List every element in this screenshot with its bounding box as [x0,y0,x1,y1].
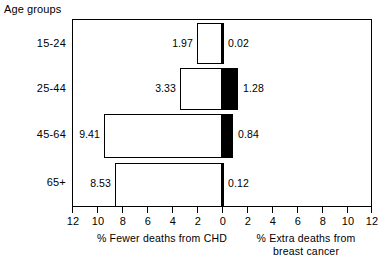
bar-chd-65plus [115,163,222,207]
category-label-15-24: 15-24 [2,37,66,49]
value-label-chd-45-64: 9.41 [44,129,100,140]
page-title: Age groups [4,3,61,15]
chart-container: Age groups 15-24 25-44 45-64 65+ 1.97 0.… [0,0,391,260]
x-tick-mark-pos2 [247,207,248,213]
x-tick-mark-pos8 [322,207,323,213]
bar-chd-45-64 [104,114,222,158]
x-tick-mark-pos10 [347,207,348,213]
bar-breast-cancer-65plus [222,163,224,207]
value-label-breast-cancer-15-24: 0.02 [228,38,288,49]
value-label-chd-25-44: 3.33 [120,83,176,94]
value-label-breast-cancer-45-64: 0.84 [238,129,298,140]
x-tick-mark-pos6 [297,207,298,213]
value-label-chd-65plus: 8.53 [55,178,111,189]
value-label-chd-15-24: 1.97 [137,38,193,49]
bar-breast-cancer-15-24 [222,23,224,64]
bar-breast-cancer-25-44 [222,68,238,110]
x-tick-mark-neg2 [197,207,198,213]
bar-breast-cancer-45-64 [222,114,233,158]
bar-chd-15-24 [197,23,222,64]
x-axis-label-right-line1: % Extra deaths from [257,232,356,244]
x-tick-mark-zero [222,207,223,213]
x-axis-label-right-line2: breast cancer [273,245,339,257]
x-tick-mark-neg12 [72,207,73,213]
x-tick-mark-neg8 [122,207,123,213]
x-tick-mark-neg6 [147,207,148,213]
bar-chd-25-44 [180,68,222,110]
x-tick-mark-neg4 [172,207,173,213]
value-label-breast-cancer-65plus: 0.12 [228,178,288,189]
x-tick-label-pos12: 12 [357,215,387,227]
x-tick-mark-neg10 [97,207,98,213]
category-label-25-44: 25-44 [2,82,66,94]
x-tick-mark-pos4 [272,207,273,213]
x-axis-label-right: % Extra deaths from breast cancer [236,232,376,257]
x-tick-mark-pos12 [371,207,372,213]
value-label-breast-cancer-25-44: 1.28 [243,83,303,94]
x-axis-label-left: % Fewer deaths from CHD [62,232,262,245]
